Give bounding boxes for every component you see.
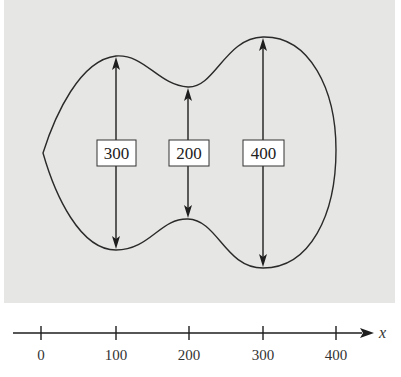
tick-label-400: 400: [325, 347, 348, 363]
tick-label-300: 300: [252, 347, 275, 363]
region-diagram: 300 200 400 x 0 100 200 300 400: [0, 0, 401, 377]
width-label: 400: [251, 144, 277, 163]
tick-label-200: 200: [178, 347, 201, 363]
tick-label-0: 0: [37, 347, 45, 363]
tick-label-100: 100: [105, 347, 128, 363]
x-axis: x 0 100 200 300 400: [13, 324, 386, 363]
axis-arrow-icon: [360, 328, 374, 338]
width-label: 300: [104, 144, 130, 163]
axis-name: x: [378, 324, 386, 341]
width-label: 200: [176, 144, 202, 163]
